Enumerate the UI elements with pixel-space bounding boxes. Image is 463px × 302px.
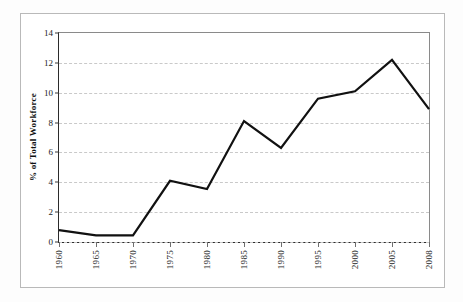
x-tick-label-1970: 1970 — [128, 250, 138, 269]
x-tick-label-1990: 1990 — [276, 250, 286, 269]
y-tick-label-2: 2 — [49, 207, 54, 217]
x-tick-label-1995: 1995 — [313, 250, 323, 269]
series-line-group — [59, 33, 429, 242]
x-tick-mark-1970 — [133, 242, 134, 247]
x-tick-mark-2008 — [429, 242, 430, 247]
y-tick-label-8: 8 — [49, 118, 54, 128]
x-tick-mark-1975 — [170, 242, 171, 247]
x-tick-label-1960: 1960 — [54, 250, 64, 269]
x-tick-label-2008: 2008 — [424, 250, 434, 269]
x-tick-mark-1985 — [244, 242, 245, 247]
y-tick-label-14: 14 — [44, 28, 53, 38]
x-tick-mark-1990 — [281, 242, 282, 247]
x-tick-label-2005: 2005 — [387, 250, 397, 269]
y-tick-label-0: 0 — [49, 237, 54, 247]
y-tick-label-12: 12 — [44, 58, 53, 68]
x-tick-mark-1965 — [96, 242, 97, 247]
series-line-workforce — [59, 60, 429, 235]
x-tick-label-1965: 1965 — [91, 250, 101, 269]
x-tick-mark-1960 — [59, 242, 60, 247]
y-axis-title: % of Total Workforce — [28, 32, 38, 243]
x-tick-label-1975: 1975 — [165, 250, 175, 269]
plot-area: 02468101214 1960196519701975198019851990… — [58, 32, 430, 243]
y-tick-label-6: 6 — [49, 147, 54, 157]
y-tick-label-10: 10 — [44, 88, 53, 98]
x-tick-label-1985: 1985 — [239, 250, 249, 269]
y-tick-label-4: 4 — [49, 177, 54, 187]
chart-figure: % of Total Workforce 02468101214 1960196… — [0, 0, 463, 302]
x-tick-mark-1980 — [207, 242, 208, 247]
x-tick-mark-2000 — [355, 242, 356, 247]
x-tick-mark-1995 — [318, 242, 319, 247]
x-tick-label-1980: 1980 — [202, 250, 212, 269]
x-tick-mark-2005 — [392, 242, 393, 247]
x-tick-label-2000: 2000 — [350, 250, 360, 269]
